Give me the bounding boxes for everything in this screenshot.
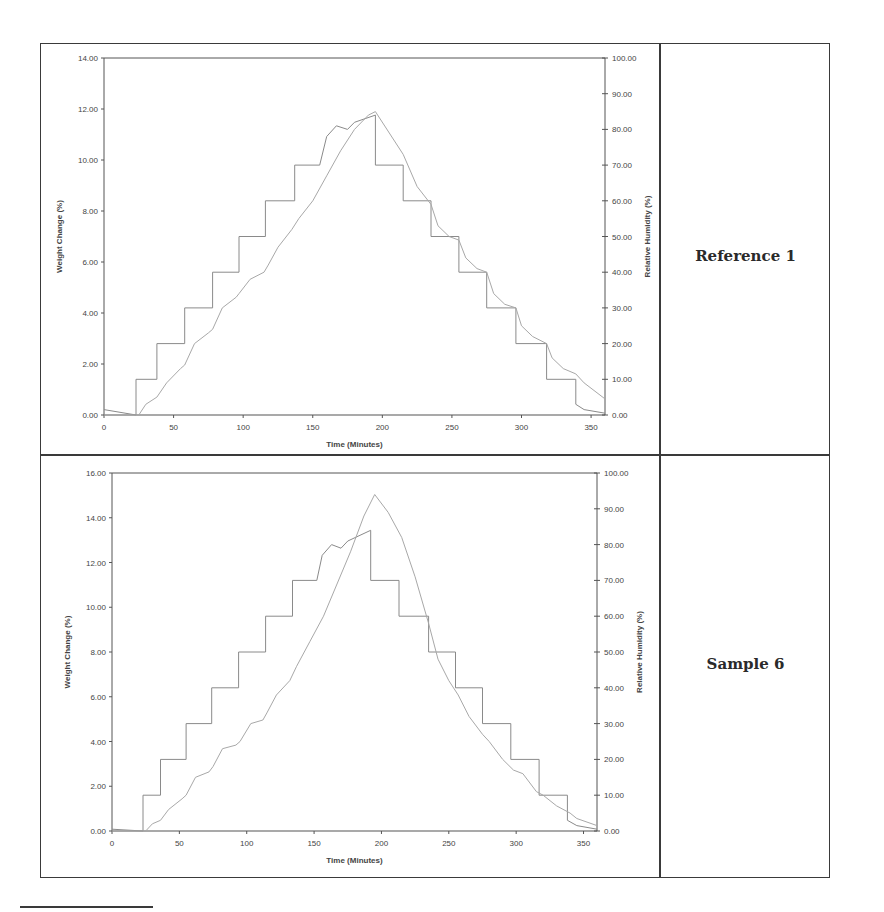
svg-text:0.00: 0.00 [604, 827, 620, 836]
svg-text:8.00: 8.00 [82, 207, 98, 216]
svg-text:6.00: 6.00 [82, 258, 98, 267]
svg-text:50.00: 50.00 [612, 233, 633, 242]
svg-text:30.00: 30.00 [612, 304, 633, 313]
svg-text:40.00: 40.00 [604, 684, 625, 693]
svg-text:350: 350 [577, 839, 591, 848]
svg-text:80.00: 80.00 [612, 125, 633, 134]
panel-label-sample-6: Sample 6 [661, 655, 830, 673]
series-line [104, 112, 605, 415]
svg-text:10.00: 10.00 [612, 375, 633, 384]
svg-text:Relative Humidity (%): Relative Humidity (%) [643, 195, 652, 277]
footnote-rule [20, 906, 153, 908]
svg-text:100.00: 100.00 [612, 54, 637, 63]
svg-text:10.00: 10.00 [78, 156, 99, 165]
svg-text:200: 200 [375, 839, 389, 848]
svg-text:60.00: 60.00 [612, 197, 633, 206]
svg-text:60.00: 60.00 [604, 612, 625, 621]
svg-text:12.00: 12.00 [86, 559, 107, 568]
svg-text:250: 250 [442, 839, 456, 848]
panel-label-reference-1: Reference 1 [661, 247, 830, 265]
svg-text:6.00: 6.00 [90, 693, 106, 702]
svg-text:Weight Change (%): Weight Change (%) [55, 200, 64, 273]
svg-text:150: 150 [306, 423, 320, 432]
svg-text:80.00: 80.00 [604, 541, 625, 550]
svg-text:100: 100 [236, 423, 250, 432]
svg-text:16.00: 16.00 [86, 469, 107, 478]
svg-text:50: 50 [175, 839, 184, 848]
svg-text:4.00: 4.00 [82, 309, 98, 318]
svg-text:Time (Minutes): Time (Minutes) [326, 856, 383, 865]
svg-text:100: 100 [240, 839, 254, 848]
series-line [112, 495, 597, 832]
svg-text:14.00: 14.00 [78, 54, 99, 63]
svg-text:10.00: 10.00 [604, 791, 625, 800]
svg-text:90.00: 90.00 [604, 505, 625, 514]
svg-text:Weight Change (%): Weight Change (%) [63, 615, 72, 688]
svg-text:10.00: 10.00 [86, 603, 107, 612]
svg-text:90.00: 90.00 [612, 90, 633, 99]
svg-text:12.00: 12.00 [78, 105, 99, 114]
table-column-divider [659, 43, 661, 878]
svg-text:0: 0 [110, 839, 115, 848]
svg-text:50.00: 50.00 [604, 648, 625, 657]
svg-text:14.00: 14.00 [86, 514, 107, 523]
svg-text:Relative Humidity (%): Relative Humidity (%) [635, 611, 644, 693]
svg-text:0: 0 [102, 423, 107, 432]
svg-text:70.00: 70.00 [612, 161, 633, 170]
svg-text:250: 250 [445, 423, 459, 432]
svg-text:4.00: 4.00 [90, 738, 106, 747]
chart-sample-6: 0.002.004.006.008.0010.0012.0014.0016.00… [41, 456, 659, 876]
svg-text:0.00: 0.00 [82, 411, 98, 420]
svg-text:2.00: 2.00 [82, 360, 98, 369]
svg-text:20.00: 20.00 [604, 755, 625, 764]
svg-text:70.00: 70.00 [604, 576, 625, 585]
svg-text:300: 300 [515, 423, 529, 432]
svg-text:100.00: 100.00 [604, 469, 629, 478]
svg-text:0.00: 0.00 [612, 411, 628, 420]
svg-text:350: 350 [584, 423, 598, 432]
svg-text:150: 150 [307, 839, 321, 848]
svg-text:200: 200 [376, 423, 390, 432]
svg-text:0.00: 0.00 [90, 827, 106, 836]
svg-text:30.00: 30.00 [604, 720, 625, 729]
chart-reference-1: 0.002.004.006.008.0010.0012.0014.000.001… [41, 44, 659, 454]
svg-text:8.00: 8.00 [90, 648, 106, 657]
svg-text:20.00: 20.00 [612, 340, 633, 349]
series-line [112, 530, 597, 831]
svg-text:50: 50 [169, 423, 178, 432]
svg-text:300: 300 [509, 839, 523, 848]
svg-text:40.00: 40.00 [612, 268, 633, 277]
svg-text:Time (Minutes): Time (Minutes) [326, 440, 383, 449]
svg-text:2.00: 2.00 [90, 782, 106, 791]
